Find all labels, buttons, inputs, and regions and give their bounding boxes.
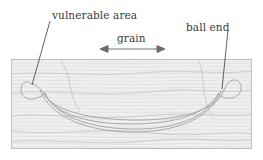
grain-arrow-icon — [100, 46, 165, 53]
wood-grain-diagram: vulnerable area ball end grain — [0, 0, 263, 160]
label-grain: grain — [117, 32, 146, 44]
label-ball-end: ball end — [186, 21, 230, 33]
wood-block — [12, 60, 252, 149]
label-vulnerable-area: vulnerable area — [52, 9, 137, 21]
